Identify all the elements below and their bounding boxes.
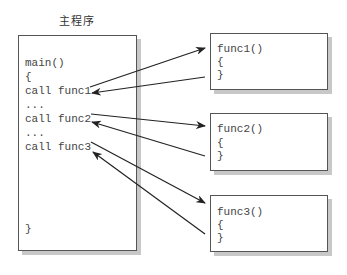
arrow-return-func1 [92,77,205,93]
call-arrows [0,0,347,275]
arrow-return-func2 [92,122,205,156]
arrow-return-func3 [93,152,205,234]
arrow-call-func1 [90,48,205,87]
arrow-call-func2 [91,114,205,126]
